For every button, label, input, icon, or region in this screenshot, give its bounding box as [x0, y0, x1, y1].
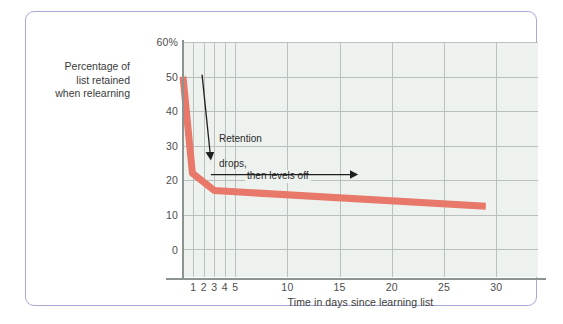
y-axis-line: [182, 40, 184, 279]
x-tick-label: 3: [211, 281, 217, 293]
figure-frame: Percentage of list retained when relearn…: [25, 11, 537, 306]
y-axis-title-line-2: list retained: [38, 74, 130, 88]
x-axis-title: Time in days since learning list: [183, 296, 538, 308]
y-axis-title: Percentage of list retained when relearn…: [38, 60, 130, 101]
y-tick-label: 20: [138, 174, 178, 186]
x-tick-label: 5: [232, 281, 238, 293]
x-axis-line: [166, 278, 546, 280]
y-tick-label: 50: [138, 71, 178, 83]
y-axis-title-line-3: when relearning: [38, 87, 130, 101]
y-axis-tick-labels: 60% 50 40 30 20 10 0: [134, 42, 178, 277]
x-tick-label: 4: [222, 281, 228, 293]
x-tick-label: 30: [490, 281, 502, 293]
y-axis-title-line-1: Percentage of: [38, 60, 130, 74]
annotation-then-levels-off: then levels off: [245, 170, 311, 183]
y-tick-label: 60%: [138, 36, 178, 48]
x-tick-label: 1: [190, 281, 196, 293]
x-tick-label: 10: [281, 281, 293, 293]
annotation-retention-drops-line-1: Retention: [219, 133, 262, 146]
x-tick-label: 15: [334, 281, 346, 293]
annotation-retention-drops-line-2: drops,: [219, 158, 262, 171]
x-axis-tick-labels: 1 2 3 4 5 10 15 20 25 30: [183, 281, 543, 297]
y-tick-label: 40: [138, 105, 178, 117]
y-tick-label: 10: [138, 209, 178, 221]
x-tick-label: 2: [201, 281, 207, 293]
y-tick-label: 30: [138, 140, 178, 152]
y-tick-label: 0: [138, 244, 178, 256]
x-tick-label: 20: [386, 281, 398, 293]
x-tick-label: 25: [438, 281, 450, 293]
